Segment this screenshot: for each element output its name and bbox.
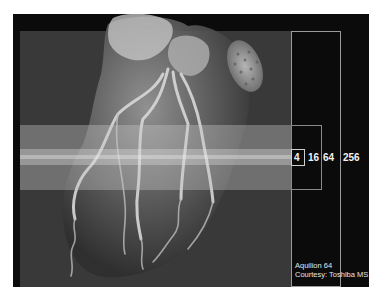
- coverage-center-line: [20, 155, 291, 159]
- coverage-label-64: 64: [323, 152, 334, 164]
- coverage-label-4: 4: [294, 152, 300, 164]
- figure-frame: 4 16 64 256 Aquilion 64 Courtesy: Toshib…: [13, 14, 369, 287]
- credit-courtesy: Courtesy: Toshiba MS: [295, 270, 368, 279]
- coverage-label-16: 16: [308, 152, 319, 164]
- image-credit: Aquilion 64 Courtesy: Toshiba MS: [295, 261, 368, 279]
- credit-scanner: Aquilion 64: [295, 261, 368, 270]
- coverage-label-256: 256: [343, 152, 360, 164]
